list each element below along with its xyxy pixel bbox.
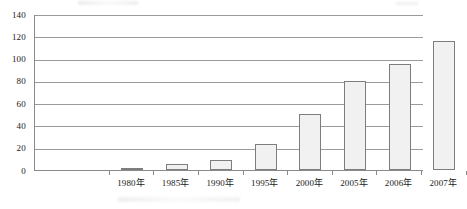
y-axis-tick-label: 40 (2, 122, 26, 131)
x-axis-category-label: 2006年 (377, 178, 421, 188)
x-axis-category-label: 2007年 (421, 178, 465, 188)
x-axis-category-label: 1990年 (198, 178, 242, 188)
x-axis-category-label: 2000年 (287, 178, 331, 188)
cropped-text-artifact-top (78, 1, 138, 5)
bar (255, 144, 277, 170)
y-axis-tick-label: 60 (2, 100, 26, 109)
bar-series (35, 15, 423, 170)
y-axis-tick-label: 100 (2, 55, 26, 64)
x-axis-category-label: 1985年 (154, 178, 198, 188)
bar (344, 81, 366, 170)
cropped-caption-artifact (118, 197, 240, 202)
bar (389, 64, 411, 170)
x-axis-tick-mark (287, 171, 288, 175)
y-axis-tick-label: 0 (2, 167, 26, 176)
cropped-text-artifact-top-right (396, 2, 418, 5)
plot-area (34, 15, 423, 171)
x-axis-category-label: 1995年 (243, 178, 287, 188)
bar (210, 160, 232, 170)
bar (166, 164, 188, 170)
x-axis-tick-mark (243, 171, 244, 175)
x-axis-tick-mark (421, 171, 422, 175)
y-axis-tick-label: 20 (2, 144, 26, 153)
bar (121, 168, 143, 170)
y-axis-tick-label: 140 (2, 11, 26, 20)
x-axis-tick-mark (109, 171, 110, 175)
bar (433, 41, 455, 170)
x-axis-tick-mark (198, 171, 199, 175)
x-axis-tick-mark (332, 171, 333, 175)
x-axis-tick-mark (376, 171, 377, 175)
x-axis-category-label: 2005年 (332, 178, 376, 188)
bar (299, 114, 321, 170)
x-axis-tick-mark (466, 171, 467, 175)
x-axis-category-label: 1980年 (109, 178, 153, 188)
y-axis-tick-label: 80 (2, 77, 26, 86)
x-axis-tick-mark (153, 171, 154, 175)
y-axis-tick-label: 120 (2, 33, 26, 42)
